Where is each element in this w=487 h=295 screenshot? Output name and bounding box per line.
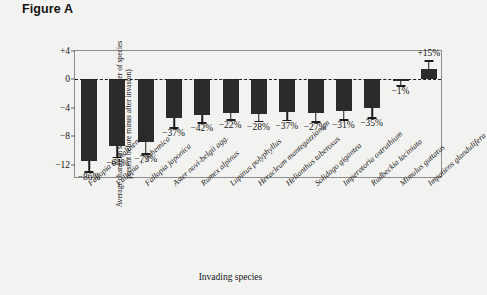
error-bar <box>287 112 289 120</box>
error-bar-cap <box>424 60 433 62</box>
bar-value-label: −28% <box>247 122 270 132</box>
bar-value-label: +15% <box>417 48 440 58</box>
bar-group: −86% <box>75 51 103 177</box>
bar <box>308 79 324 112</box>
error-bar <box>315 113 317 122</box>
figure-title: Figure A <box>22 2 73 16</box>
bar <box>279 79 295 112</box>
zero-reference-line <box>75 79 441 80</box>
bar <box>421 69 437 79</box>
error-bar <box>371 108 373 117</box>
y-tick-label: −12 <box>55 160 70 170</box>
bar <box>364 79 380 107</box>
error-bar <box>173 118 175 127</box>
error-bar <box>202 115 204 122</box>
y-tick-label: 0 <box>65 74 70 84</box>
bar-value-label: −22% <box>219 120 242 130</box>
error-bar <box>343 111 345 120</box>
bar-value-label: −37% <box>275 121 298 131</box>
error-bar <box>88 161 90 172</box>
y-tick-label: −8 <box>60 131 70 141</box>
y-tick-label: −4 <box>60 103 70 113</box>
bar <box>166 79 182 117</box>
x-axis-title: Invading species <box>0 272 461 282</box>
bar <box>223 79 239 112</box>
bar <box>194 79 210 115</box>
y-tick-label: +4 <box>60 46 70 56</box>
bar <box>336 79 352 110</box>
bar <box>81 79 97 160</box>
bar <box>109 79 125 145</box>
bar-value-label: −1% <box>392 86 410 96</box>
error-bar <box>258 114 260 121</box>
bar-value-label: −35% <box>360 118 383 128</box>
bar <box>251 79 267 113</box>
bar-value-label: −42% <box>190 123 213 133</box>
bar-value-label: −31% <box>332 120 355 130</box>
